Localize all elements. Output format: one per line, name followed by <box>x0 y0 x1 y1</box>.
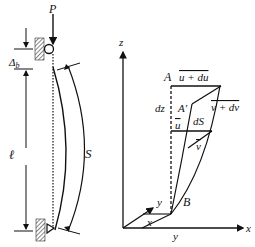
u-plus-du-label: u + du <box>179 71 209 83</box>
arc-length-dimension <box>68 66 85 231</box>
roller-icon <box>45 45 54 54</box>
y-axis-label: y <box>156 196 162 208</box>
arc-bottom-arrow <box>64 226 70 232</box>
base-x-label: x <box>146 216 152 228</box>
z-axis-label: z <box>118 36 124 48</box>
base-y-label: y <box>172 230 178 242</box>
top-support-wall <box>35 38 44 60</box>
bottom-support-wall <box>36 219 45 241</box>
length-label: ℓ <box>9 147 15 162</box>
point-a-prime-label: A′ <box>177 102 188 114</box>
left-panel-column: P Δb ℓ S <box>8 2 92 241</box>
arc-length-label: S <box>85 146 92 161</box>
v-label: v <box>196 140 201 152</box>
ds-label: dS <box>193 115 205 127</box>
right-panel-3d-geometry: z x y x y B A u + du dz A′ v + dv u dS v <box>118 36 251 242</box>
v-plus-dv-label: v + dv <box>211 101 239 113</box>
u-label: u <box>175 119 181 131</box>
x-axis-label: x <box>245 222 251 234</box>
dz-label: dz <box>155 102 166 114</box>
column-buckling-diagram: P Δb ℓ S z x <box>0 0 255 247</box>
point-b-label: B <box>183 195 191 209</box>
point-a-label: A <box>163 70 172 84</box>
load-label: P <box>48 2 57 16</box>
delta-b-label: Δb <box>8 56 19 70</box>
buckled-column <box>53 67 66 230</box>
